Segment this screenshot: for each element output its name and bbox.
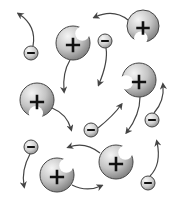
arrow-cation1-icon bbox=[64, 60, 70, 91]
arrow-cation5-icon bbox=[72, 185, 101, 189]
cations-layer: ++++++ bbox=[0, 0, 159, 192]
arrow-cation3-icon bbox=[52, 108, 71, 129]
cation-3: + bbox=[0, 0, 54, 120]
arrow-anion4-icon bbox=[98, 105, 121, 128]
arrow-cation4-icon bbox=[127, 97, 140, 132]
arrow-anion5-icon bbox=[23, 154, 30, 186]
anion-5: − bbox=[0, 0, 38, 154]
arrow-anion1-icon bbox=[19, 14, 34, 46]
diagram-canvas: ++++++ −−−−−− bbox=[0, 0, 177, 199]
cation-1: + bbox=[0, 0, 90, 60]
ions-diagram: Ions in solution ++++++ −−−−−− bbox=[0, 0, 177, 199]
arrow-anion6-icon bbox=[150, 142, 158, 176]
arrow-cation2-icon bbox=[95, 14, 128, 20]
arrow-anion3-icon bbox=[154, 85, 163, 113]
arrow-anion2-icon bbox=[99, 48, 107, 84]
arrow-cation6-icon bbox=[69, 145, 100, 153]
anion-4: − bbox=[0, 0, 98, 137]
